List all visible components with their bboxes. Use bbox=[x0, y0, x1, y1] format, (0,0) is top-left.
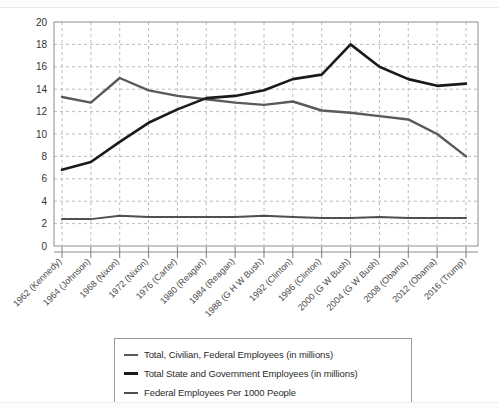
x-axis-tick-labels: 1962 (Kennedy)1964 (Johnson)1968 (Nixon)… bbox=[11, 256, 467, 319]
x-axis-tick-label: 1962 (Kennedy) bbox=[11, 256, 63, 308]
line-chart-svg: 02468101214161820 1962 (Kennedy)1964 (Jo… bbox=[0, 6, 499, 336]
y-axis-tick-label: 8 bbox=[41, 151, 47, 162]
y-axis-tick-labels: 02468101214161820 bbox=[36, 17, 48, 252]
bottom-divider bbox=[0, 402, 499, 409]
y-axis-tick-label: 10 bbox=[36, 129, 48, 140]
legend-item-2: Federal Employees Per 1000 People bbox=[124, 384, 402, 401]
axis-layer bbox=[54, 22, 478, 258]
y-axis-tick-label: 20 bbox=[36, 17, 48, 28]
x-axis-tick-label: 2000 (G W Bush) bbox=[296, 256, 352, 312]
y-axis-tick-label: 18 bbox=[36, 39, 48, 50]
y-axis-tick-label: 6 bbox=[41, 173, 47, 184]
legend-item-label: Total, Civilian, Federal Employees (in m… bbox=[144, 349, 333, 360]
y-axis-tick-label: 4 bbox=[41, 196, 47, 207]
legend-swatch-icon bbox=[124, 392, 138, 394]
y-axis-tick-label: 12 bbox=[36, 106, 48, 117]
chart-figure: 02468101214161820 1962 (Kennedy)1964 (Jo… bbox=[0, 0, 499, 409]
chart-legend: Total, Civilian, Federal Employees (in m… bbox=[114, 338, 412, 409]
y-axis-tick-label: 0 bbox=[41, 241, 47, 252]
y-axis-tick-label: 2 bbox=[41, 218, 47, 229]
x-axis-tick-label: 2004 (G W Bush) bbox=[325, 256, 381, 312]
grid-layer bbox=[54, 22, 478, 246]
legend-item-1: Total State and Government Employees (in… bbox=[124, 365, 402, 382]
legend-item-label: Federal Employees Per 1000 People bbox=[144, 387, 296, 398]
legend-item-label: Total State and Government Employees (in… bbox=[144, 368, 358, 379]
y-axis-tick-label: 16 bbox=[36, 61, 48, 72]
plot-area: 02468101214161820 1962 (Kennedy)1964 (Jo… bbox=[0, 6, 499, 336]
legend-swatch-icon bbox=[124, 354, 138, 356]
legend-item-0: Total, Civilian, Federal Employees (in m… bbox=[124, 346, 402, 363]
series-line-2 bbox=[62, 216, 466, 219]
y-axis-tick-label: 14 bbox=[36, 84, 48, 95]
legend-swatch-icon bbox=[124, 372, 138, 375]
